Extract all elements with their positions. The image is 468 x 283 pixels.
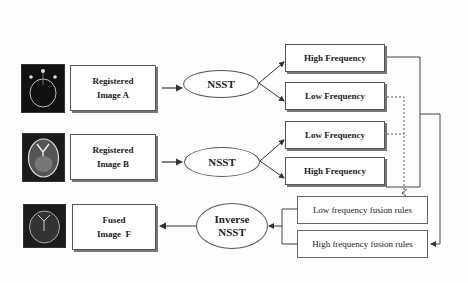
brain-scan-icon [24,205,65,247]
diagram-canvas: Registered Image A NSST High Frequency L… [0,0,468,283]
brain-scan-icon [23,134,64,181]
fused-image-line2: Image F [97,227,131,241]
nsst-a-label: NSST [207,78,235,91]
fused-image-f-box: Fused Image F [72,204,156,250]
brain-scan-b-thumbnail [22,133,65,182]
registered-image-b-line1: Registered [93,143,134,157]
registered-image-a-line2: Image A [97,88,129,102]
inverse-nsst-line2: NSST [218,226,246,239]
low-frequency-b-label: Low Frequency [305,128,365,142]
brain-scan-a-thumbnail [21,64,65,113]
registered-image-b-line2: Image B [97,157,129,171]
inverse-nsst-line1: Inverse [215,213,250,226]
high-frequency-b-box: High Frequency [285,157,385,185]
nsst-b-label: NSST [208,156,236,169]
high-frequency-fusion-rules-box: High frequency fusion rules [297,230,428,258]
low-frequency-b-box: Low Frequency [285,121,385,149]
registered-image-a-box: Registered Image A [70,65,156,111]
registered-image-a-line1: Registered [93,74,134,88]
fused-brain-scan-thumbnail [23,204,66,248]
low-frequency-fusion-rules-label: Low frequency fusion rules [313,203,412,217]
fused-image-line1: Fused [102,213,125,227]
high-frequency-a-label: High Frequency [304,51,366,65]
brain-scan-icon [22,65,64,112]
low-frequency-fusion-rules-box: Low frequency fusion rules [297,196,428,224]
high-frequency-a-box: High Frequency [285,44,385,72]
inverse-nsst-ellipse: Inverse NSST [196,203,268,249]
low-frequency-a-box: Low Frequency [285,82,385,110]
nsst-a-ellipse: NSST [183,70,259,98]
registered-image-b-box: Registered Image B [70,134,156,180]
high-frequency-fusion-rules-label: High frequency fusion rules [312,237,413,251]
high-frequency-b-label: High Frequency [304,164,366,178]
nsst-b-ellipse: NSST [184,147,260,177]
low-frequency-a-label: Low Frequency [305,89,365,103]
